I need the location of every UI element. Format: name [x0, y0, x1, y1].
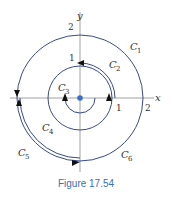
svg-text:4: 4 [49, 128, 54, 136]
svg-text:6: 6 [128, 155, 133, 163]
diagram: y x 2 1 1 2 C 1 C 2 C 3 C 4 C 5 C 6 [0, 0, 172, 198]
label-c5: C 5 [18, 147, 29, 161]
svg-text:5: 5 [25, 153, 29, 161]
label-c6: C 6 [121, 149, 133, 163]
x-tick-1: 1 [116, 103, 122, 113]
svg-text:2: 2 [116, 65, 120, 73]
arrow-c4-right-icon [106, 93, 112, 101]
label-c3: C 3 [58, 82, 69, 96]
origin-dot [77, 95, 83, 101]
figure-caption: Figure 17.54 [0, 178, 172, 189]
label-c1: C 1 [130, 41, 141, 55]
x-tick-2: 2 [145, 103, 151, 113]
svg-text:1: 1 [137, 47, 141, 55]
arrow-c1-down-icon [14, 90, 20, 97]
x-axis-label: x [155, 92, 161, 103]
svg-text:3: 3 [65, 88, 69, 96]
y-tick-1: 1 [69, 53, 75, 63]
y-tick-2: 2 [68, 22, 74, 32]
y-axis-label: y [76, 10, 83, 21]
label-c4: C 4 [42, 122, 54, 136]
arrow-c2-icon [77, 60, 84, 66]
label-c2: C 2 [109, 59, 120, 73]
